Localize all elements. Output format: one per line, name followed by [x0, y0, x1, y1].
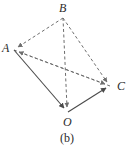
vertex-label-c: C — [117, 80, 125, 92]
edge-b-to-a — [18, 18, 63, 47]
edge-o-to-c — [68, 88, 106, 112]
edge-b-to-c — [63, 18, 107, 82]
edge-b-to-o — [63, 18, 67, 107]
edge-a-to-c — [14, 50, 105, 84]
geometry-diagram — [0, 0, 134, 152]
edge-group — [14, 18, 110, 112]
vertex-label-a: A — [2, 42, 9, 54]
edge-a-to-o — [14, 50, 64, 108]
figure-caption: (b) — [0, 131, 134, 146]
figure-container: A B C O (b) — [0, 0, 134, 152]
vertex-label-b: B — [59, 2, 66, 14]
vertex-label-o: O — [63, 116, 72, 128]
